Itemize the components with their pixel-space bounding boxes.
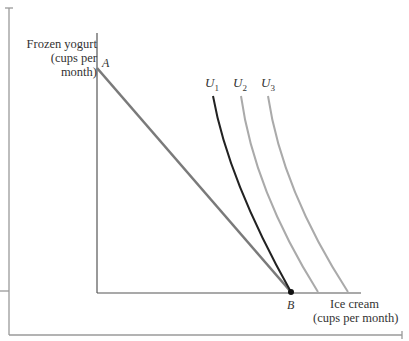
x-axis-label-line-1: Ice cream bbox=[313, 297, 409, 311]
point-a-label: A bbox=[102, 56, 109, 71]
indifference-curve-u3 bbox=[268, 96, 348, 292]
u2-letter: U bbox=[233, 75, 242, 90]
u1-letter: U bbox=[205, 75, 214, 90]
point-b-label: B bbox=[287, 298, 294, 313]
u3-subscript: 3 bbox=[270, 83, 275, 93]
indifference-curve-u1 bbox=[213, 96, 291, 292]
indifference-curve-u2 bbox=[241, 96, 318, 292]
point-b-marker bbox=[288, 289, 294, 295]
y-axis-label-line-2: (cups per bbox=[0, 51, 97, 65]
y-axis-label: Frozen yogurt (cups per month) bbox=[0, 37, 97, 79]
y-axis-label-line-1: Frozen yogurt bbox=[0, 37, 97, 51]
u2-label: U2 bbox=[233, 75, 247, 93]
x-axis-label: Ice cream (cups per month) bbox=[313, 297, 409, 325]
u1-subscript: 1 bbox=[214, 83, 219, 93]
u2-subscript: 2 bbox=[242, 83, 247, 93]
u3-label: U3 bbox=[261, 75, 275, 93]
x-axis-label-line-2: (cups per month) bbox=[313, 311, 409, 325]
y-axis-label-line-3: month) bbox=[0, 65, 97, 79]
u1-label: U1 bbox=[205, 75, 219, 93]
u3-letter: U bbox=[261, 75, 270, 90]
